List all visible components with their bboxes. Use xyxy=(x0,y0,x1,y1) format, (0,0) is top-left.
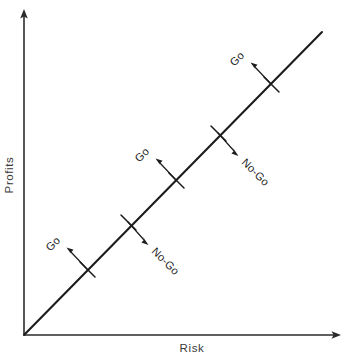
annotation-go-3: Go xyxy=(227,49,271,84)
diagram-canvas: Go No-Go Go No-Go Go Profits Risk xyxy=(0,0,345,358)
annotation-go-2: Go xyxy=(132,145,176,180)
annotation-no-go-2-arrow-shaft xyxy=(218,133,235,152)
annotation-go-1-arrowhead xyxy=(67,248,74,257)
x-axis-label: Risk xyxy=(180,342,205,354)
annotation-go-3-arrow-shaft xyxy=(255,67,272,85)
y-axis-group xyxy=(20,9,28,335)
y-axis-label: Profits xyxy=(3,157,15,194)
annotation-go-2-arrow-shaft xyxy=(160,163,177,181)
annotation-go-3-arrowhead xyxy=(251,63,258,72)
annotation-no-go-1-arrow-shaft xyxy=(128,222,145,241)
annotation-no-go-1-label: No-Go xyxy=(150,245,182,277)
annotation-go-3-label: Go xyxy=(227,49,246,68)
annotation-go-1-arrow-shaft xyxy=(71,252,88,270)
annotation-go-1-label: Go xyxy=(43,234,62,253)
annotation-go-1: Go xyxy=(43,234,87,269)
trend-line-group xyxy=(24,32,322,335)
annotation-go-2-label: Go xyxy=(132,145,151,164)
risk-profit-diagram: Go No-Go Go No-Go Go Profits Risk xyxy=(0,0,345,358)
annotation-no-go-2: No-Go xyxy=(218,133,272,188)
risk-profit-trend-line xyxy=(24,32,322,335)
annotation-no-go-1: No-Go xyxy=(128,222,182,277)
annotation-go-2-arrowhead xyxy=(156,159,163,168)
annotation-no-go-2-label: No-Go xyxy=(240,156,272,188)
x-axis-group xyxy=(24,331,341,339)
